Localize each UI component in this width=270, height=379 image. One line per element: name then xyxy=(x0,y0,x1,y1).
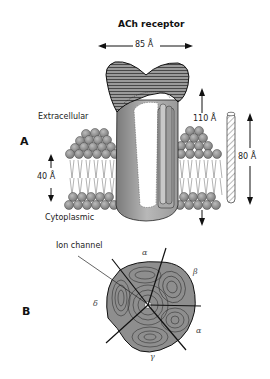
lipid-bilayer-left xyxy=(65,129,120,210)
subunit-delta: δ xyxy=(93,299,98,308)
subunit-alpha-right: α xyxy=(196,326,201,335)
cytoplasmic-label: Cytoplasmic xyxy=(45,213,94,222)
panel-b-label: B xyxy=(22,305,30,318)
width-label: 85 Å xyxy=(135,40,153,49)
length-80-label: 80 Å xyxy=(238,152,256,161)
membrane-40-label: 40 Å xyxy=(37,172,55,181)
subunit-alpha-top: α xyxy=(142,248,147,257)
subunit-beta: β xyxy=(193,267,198,276)
lipid-bilayer-right xyxy=(176,127,223,210)
helix-rod xyxy=(227,113,235,203)
ion-channel-label: Ion channel xyxy=(56,241,103,250)
extracellular-label: Extracellular xyxy=(38,112,88,121)
receptor-diagram xyxy=(0,0,270,379)
subunit-gamma: γ xyxy=(150,352,155,361)
length-110-label: 110 Å xyxy=(193,114,216,123)
panel-a-label: A xyxy=(20,135,29,148)
figure-title: ACh receptor xyxy=(118,19,184,29)
receptor-protein xyxy=(106,62,189,221)
